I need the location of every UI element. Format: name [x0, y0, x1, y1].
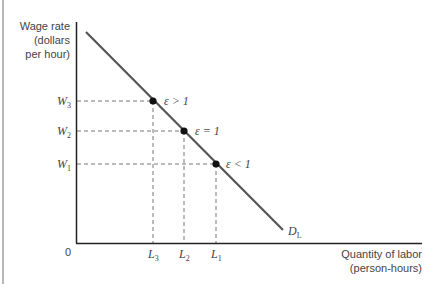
x-tick-l3: L3 — [147, 247, 159, 263]
y-tick-w3: W3 — [57, 94, 71, 110]
y-axis-title-line1: Wage rate — [20, 20, 70, 32]
annotation-elastic: ε > 1 — [164, 94, 189, 108]
y-tick-w2: W2 — [57, 124, 71, 140]
chart-canvas: Wage rate (dollars per hour) W3 W2 W1 0 … — [0, 0, 446, 284]
point-unit-elastic — [180, 127, 187, 134]
x-tick-l1: L1 — [210, 247, 222, 263]
annotation-unit-elastic: ε = 1 — [195, 124, 220, 138]
y-axis-title-line2: (dollars — [34, 34, 71, 46]
chart-frame: Wage rate (dollars per hour) W3 W2 W1 0 … — [0, 0, 446, 284]
annotation-inelastic: ε < 1 — [226, 157, 251, 171]
y-tick-w1: W1 — [57, 157, 71, 173]
point-inelastic — [212, 160, 219, 167]
x-axis-title-line1: Quantity of labor — [341, 248, 422, 260]
x-tick-l2: L2 — [178, 247, 190, 263]
point-elastic — [149, 97, 156, 104]
x-axis-title-line2: (person-hours) — [350, 262, 422, 274]
y-axis-title-line3: per hour) — [25, 48, 70, 60]
demand-curve-label: DL — [287, 224, 302, 240]
origin-label: 0 — [65, 246, 71, 258]
guide-lines — [77, 101, 216, 243]
